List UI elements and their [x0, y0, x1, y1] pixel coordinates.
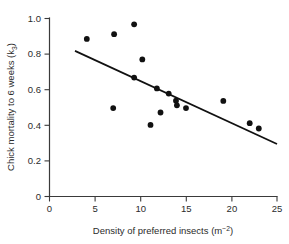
y-tick-label: 0.8	[28, 48, 41, 59]
axes-group	[49, 18, 277, 197]
trend-line-group	[75, 51, 277, 144]
chart-figure: 0 0.2 0.4 0.6 0.8 1.0 0 5 10 15 20 25	[0, 0, 289, 244]
data-point	[139, 57, 145, 63]
data-point	[183, 105, 189, 111]
data-point	[158, 110, 164, 116]
y-tick-label: 0	[36, 191, 41, 202]
data-point	[220, 98, 226, 104]
data-point	[256, 126, 262, 132]
data-point	[84, 36, 90, 42]
x-tick-label: 0	[47, 203, 52, 214]
x-tick-label: 25	[272, 203, 283, 214]
y-tick-group: 0 0.2 0.4 0.6 0.8 1.0	[28, 13, 50, 202]
x-tick-label: 15	[181, 203, 192, 214]
data-point	[166, 91, 172, 97]
data-points-group	[84, 21, 262, 131]
y-tick-label: 0.2	[28, 155, 41, 166]
regression-line	[75, 51, 277, 144]
x-tick-label: 20	[227, 203, 238, 214]
y-tick-label: 0.4	[28, 120, 41, 131]
y-axis-title: Chick mortality to 6 weeks (k3)	[5, 43, 18, 171]
data-point	[111, 31, 117, 37]
x-tick-label: 5	[92, 203, 97, 214]
data-point	[148, 122, 154, 128]
x-tick-group: 0 5 10 15 20 25	[47, 197, 282, 215]
y-tick-label: 1.0	[28, 13, 41, 24]
data-point	[110, 105, 116, 111]
data-point	[247, 120, 253, 126]
data-point	[154, 86, 160, 92]
scatter-plot: 0 0.2 0.4 0.6 0.8 1.0 0 5 10 15 20 25	[0, 0, 289, 244]
data-point	[131, 75, 137, 81]
y-tick-label: 0.6	[28, 84, 41, 95]
data-point	[174, 102, 180, 108]
x-axis-title: Density of preferred insects (m−2)	[93, 225, 233, 237]
data-point	[131, 21, 137, 27]
x-tick-label: 10	[135, 203, 146, 214]
